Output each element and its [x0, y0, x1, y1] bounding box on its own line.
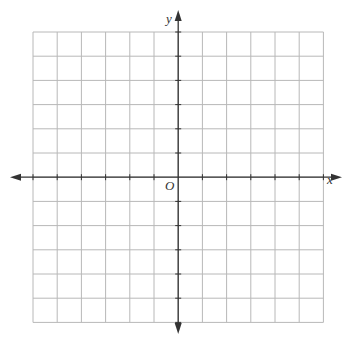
x-axis-arrow-left-icon — [10, 174, 21, 181]
y-axis-arrow-down-icon — [175, 323, 182, 334]
y-axis-arrow-up-icon — [175, 10, 182, 21]
y-axis — [175, 10, 182, 334]
coordinate-plane: x y O — [0, 0, 354, 346]
origin-label: O — [165, 178, 175, 193]
y-axis-label: y — [164, 11, 172, 26]
x-axis-label: x — [326, 172, 333, 187]
x-axis — [10, 174, 342, 181]
